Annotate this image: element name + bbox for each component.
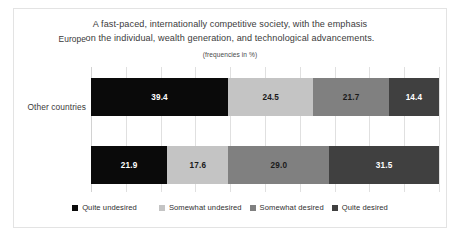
legend-swatch-icon <box>250 205 256 211</box>
chart-legend: Quite undesiredSomewhat undesiredSomewha… <box>14 203 446 212</box>
bar-segment: 29.0 <box>228 146 329 184</box>
bar-segment: 31.5 <box>329 146 439 184</box>
plot-area: 39.424.521.714.4 21.917.629.031.5 <box>91 67 439 192</box>
legend-label: Somewhat undesired <box>169 203 242 212</box>
legend-item[interactable]: Quite undesired <box>72 203 137 212</box>
stacked-bar-europe: 39.424.521.714.4 <box>91 78 439 116</box>
bar-segment: 21.7 <box>313 78 389 116</box>
legend-swatch-icon <box>159 205 165 211</box>
legend-label: Quite undesired <box>82 203 137 212</box>
stacked-bar-other-countries: 21.917.629.031.5 <box>91 146 439 184</box>
chart-frame: A fast-paced, internationally competitiv… <box>13 8 447 228</box>
legend-item[interactable]: Somewhat desired <box>250 203 324 212</box>
bar-segment: 17.6 <box>167 146 228 184</box>
bar-segment: 39.4 <box>91 78 228 116</box>
legend-swatch-icon <box>332 205 338 211</box>
legend-label: Quite desired <box>342 203 388 212</box>
legend-item[interactable]: Quite desired <box>332 203 388 212</box>
bar-segment: 21.9 <box>91 146 167 184</box>
legend-swatch-icon <box>72 205 78 211</box>
bar-segment: 24.5 <box>228 78 313 116</box>
legend-item[interactable]: Somewhat undesired <box>159 203 242 212</box>
category-axis: Europe Other countries <box>14 9 91 134</box>
category-label-europe: Europe <box>58 34 86 44</box>
category-label-other-countries: Other countries <box>27 102 86 112</box>
bar-segment: 14.4 <box>389 78 439 116</box>
gridline-100 <box>439 67 440 192</box>
legend-label: Somewhat desired <box>260 203 324 212</box>
